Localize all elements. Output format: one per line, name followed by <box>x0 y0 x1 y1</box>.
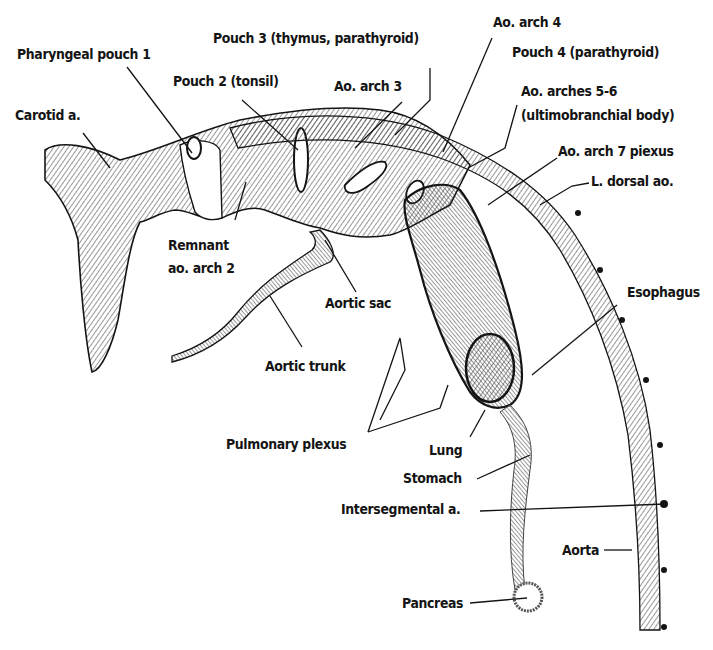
label-ao-arches-5-6: Ao. arches 5-6 <box>521 83 617 100</box>
pouch-1-outline <box>187 137 201 159</box>
label-intersegmental-artery: Intersegmental a. <box>341 501 461 518</box>
label-ao-arch-3: Ao. arch 3 <box>334 78 402 95</box>
label-pulmonary-plexus: Pulmonary plexus <box>226 436 346 453</box>
label-lung: Lung <box>429 442 462 459</box>
label-l-dorsal-aorta: L. dorsal ao. <box>591 173 673 190</box>
label-aortic-trunk: Aortic trunk <box>265 358 345 375</box>
label-pancreas: Pancreas <box>402 595 463 612</box>
label-carotid-artery: Carotid a. <box>15 107 81 124</box>
lung-lobe <box>466 334 514 402</box>
label-aortic-sac: Aortic sac <box>325 295 391 312</box>
label-pouch-2: Pouch 2 (tonsil) <box>173 73 278 90</box>
label-remnant: Remnant <box>168 237 229 254</box>
pancreas-bud <box>514 583 542 611</box>
label-ao-arch-7-plexus: Ao. arch 7 piexus <box>558 143 674 160</box>
label-pharyngeal-pouch-1: Pharyngeal pouch 1 <box>17 46 150 63</box>
label-pouch-4: Pouch 4 (parathyroid) <box>512 44 659 61</box>
esophagus-stomach-tube <box>500 405 531 590</box>
label-ao-arch-4: Ao. arch 4 <box>493 14 561 31</box>
label-ultimobranchial-body: (ultimobranchial body) <box>521 107 674 124</box>
label-aorta: Aorta <box>562 542 599 559</box>
label-stomach: Stomach <box>403 470 462 487</box>
label-pouch-3: Pouch 3 (thymus, parathyroid) <box>213 30 419 47</box>
label-remnant-arch-2: ao. arch 2 <box>168 260 234 277</box>
label-esophagus: Esophagus <box>627 284 700 301</box>
